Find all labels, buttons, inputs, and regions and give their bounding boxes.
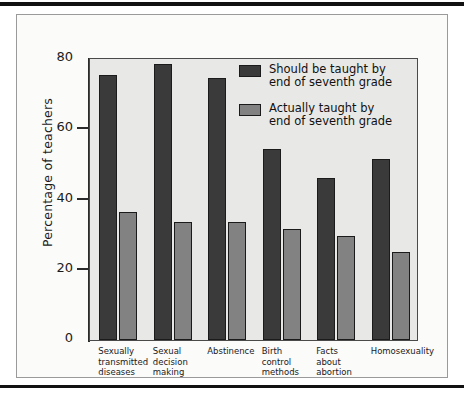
- bar-actual: [283, 229, 301, 340]
- bar-should: [208, 78, 226, 340]
- chart-panel: Percentage of teachers 020406080 Sexuall…: [16, 14, 448, 378]
- bar-should: [263, 149, 281, 340]
- top-rule: [0, 2, 464, 6]
- y-axis-title: Percentage of teachers: [40, 53, 55, 293]
- bar-actual: [174, 222, 192, 340]
- y-tick-label: 60: [27, 119, 73, 134]
- chart-legend: Should be taught by end of seventh grade…: [239, 63, 392, 141]
- bar-should: [317, 178, 335, 340]
- bar-should: [99, 75, 117, 340]
- y-tick-mark: [77, 268, 89, 270]
- bar-actual: [392, 252, 410, 340]
- bar-should: [372, 159, 390, 340]
- y-tick-label: 20: [27, 260, 73, 275]
- bottom-rule: [0, 385, 464, 388]
- legend-item-should-be-taught: Should be taught by end of seventh grade: [239, 63, 392, 89]
- bar-actual: [337, 236, 355, 340]
- y-tick-mark: [77, 198, 89, 200]
- x-axis-label: Homosexuality: [371, 346, 436, 357]
- y-tick-label: 40: [27, 190, 73, 205]
- legend-swatch-dark-icon: [239, 65, 261, 77]
- y-tick-label: 0: [27, 330, 73, 345]
- bar-actual: [119, 212, 137, 340]
- legend-item-actually-taught: Actually taught by end of seventh grade: [239, 102, 392, 128]
- chart-figure: Percentage of teachers 020406080 Sexuall…: [0, 0, 464, 403]
- bar-actual: [228, 222, 246, 340]
- y-tick-label: 80: [27, 49, 73, 64]
- bar-should: [154, 64, 172, 340]
- y-tick-mark: [77, 127, 89, 129]
- legend-label-should-be-taught: Should be taught by end of seventh grade: [269, 63, 392, 89]
- legend-swatch-light-icon: [239, 104, 261, 116]
- legend-label-actually-taught: Actually taught by end of seventh grade: [269, 102, 392, 128]
